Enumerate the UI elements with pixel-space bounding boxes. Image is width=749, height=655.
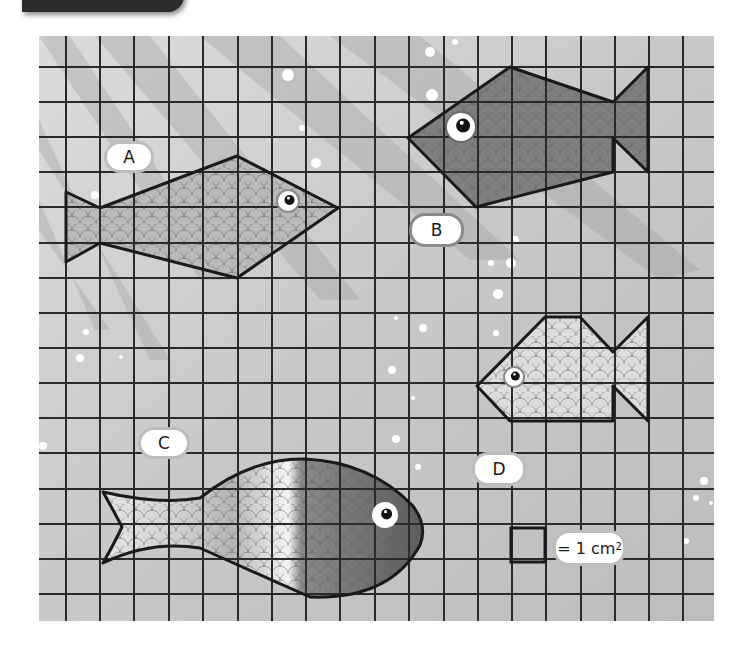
- fish-label-c-text: C: [158, 433, 170, 453]
- fish-d-eye-highlight: [513, 373, 516, 376]
- bubble: [493, 330, 499, 336]
- bubble: [693, 495, 699, 501]
- fish-a-eye-highlight: [287, 197, 290, 200]
- bubble: [76, 354, 84, 362]
- bubble: [394, 316, 398, 320]
- bubble: [282, 69, 294, 81]
- fish-label-d-text: D: [492, 459, 505, 479]
- fish-c-eye-highlight: [384, 510, 387, 513]
- bubble: [119, 355, 123, 359]
- bubble: [392, 435, 400, 443]
- fish-d-pupil: [511, 372, 520, 381]
- unit-legend-text: = 1 cm: [557, 539, 615, 558]
- bubble: [700, 477, 708, 485]
- unit-legend-superscript: 2: [615, 541, 621, 552]
- bubble: [415, 464, 421, 470]
- bubble: [311, 158, 321, 168]
- fish-a-pupil: [285, 195, 295, 205]
- fish-label-a-text: A: [123, 147, 135, 167]
- fish-grid-diagram: [0, 0, 749, 655]
- bubble: [419, 324, 427, 332]
- bubble: [493, 289, 503, 299]
- bubble: [709, 501, 713, 505]
- bubble: [426, 89, 438, 101]
- fish-label-c: C: [138, 427, 190, 459]
- bubble: [411, 396, 415, 400]
- bubble: [39, 442, 47, 450]
- bubble: [452, 39, 458, 45]
- fish-label-b: B: [409, 213, 464, 247]
- fish-label-a: A: [104, 141, 154, 173]
- bubble: [91, 191, 99, 199]
- bubble: [299, 125, 305, 131]
- fish-label-b-text: B: [431, 220, 443, 240]
- bubble: [425, 47, 435, 57]
- fish-c-pupil: [381, 508, 392, 519]
- fish-b-eye-highlight: [460, 121, 464, 125]
- bubble: [388, 366, 396, 374]
- fish-label-d: D: [472, 452, 526, 486]
- unit-legend-label: = 1 cm2: [553, 530, 626, 566]
- bubble: [488, 260, 494, 266]
- bubble: [83, 329, 89, 335]
- fish-b-pupil: [456, 119, 470, 133]
